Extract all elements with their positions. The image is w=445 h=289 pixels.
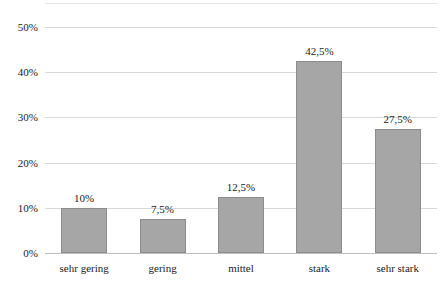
xaxis-label-sehr-stark: sehr stark	[377, 263, 419, 274]
bar-slot-gering: 7,5% gering	[140, 27, 186, 253]
xaxis-label-gering: gering	[149, 263, 177, 274]
bar-value-label: 42,5%	[305, 46, 333, 57]
bar-sehr-stark[interactable]	[375, 129, 421, 253]
ytick-label-30: 30%	[18, 112, 38, 123]
bar-sehr-gering[interactable]	[61, 208, 107, 253]
axis-baseline-0: 0%	[45, 253, 437, 254]
ytick-label-10: 10%	[18, 202, 38, 213]
bar-chart: 50% 40% 30% 20% 10% 0% 10% sehr gering 7…	[0, 0, 445, 289]
bar-value-label: 12,5%	[227, 182, 255, 193]
plot-area: 50% 40% 30% 20% 10% 0% 10% sehr gering 7…	[45, 27, 437, 253]
ytick-label-50: 50%	[18, 22, 38, 33]
chart-top-border	[45, 3, 437, 4]
ytick-label-40: 40%	[18, 67, 38, 78]
bar-gering[interactable]	[140, 219, 186, 253]
xaxis-label-sehr-gering: sehr gering	[60, 263, 109, 274]
bar-slot-sehr-gering: 10% sehr gering	[61, 27, 107, 253]
bar-group: 10% sehr gering 7,5% gering 12,5% mittel…	[45, 27, 437, 253]
bar-mittel[interactable]	[218, 197, 264, 254]
bar-slot-mittel: 12,5% mittel	[218, 27, 264, 253]
ytick-label-20: 20%	[18, 157, 38, 168]
ytick-label-0: 0%	[23, 248, 38, 259]
bar-value-label: 10%	[74, 193, 94, 204]
bar-stark[interactable]	[296, 61, 342, 253]
bar-slot-stark: 42,5% stark	[296, 27, 342, 253]
bar-value-label: 7,5%	[151, 204, 174, 215]
bar-value-label: 27,5%	[384, 114, 412, 125]
xaxis-label-mittel: mittel	[228, 263, 254, 274]
xaxis-label-stark: stark	[309, 263, 330, 274]
bar-slot-sehr-stark: 27,5% sehr stark	[375, 27, 421, 253]
